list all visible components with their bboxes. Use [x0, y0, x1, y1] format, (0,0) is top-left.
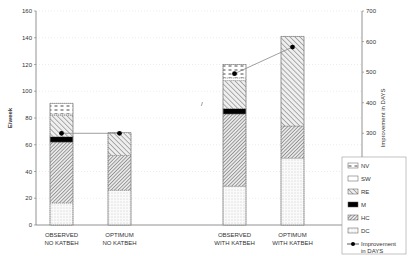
- category-label: OPTIMUM: [278, 232, 306, 238]
- category-label: NO KATBEH: [102, 240, 136, 246]
- improvement-line: [59, 45, 295, 136]
- y-tick-label: 60: [25, 142, 32, 148]
- bar-stack: [108, 133, 131, 225]
- y2-tick-label: 700: [366, 8, 377, 14]
- bar-segment-m: [50, 137, 73, 142]
- category-label: OPTIMUM: [105, 232, 133, 238]
- category-label: NO KATBEH: [44, 240, 78, 246]
- legend-swatch-sw: [348, 176, 358, 181]
- y-tick-label: 140: [22, 35, 33, 41]
- gridlines: [36, 11, 362, 198]
- bar-segment-sw: [223, 78, 246, 81]
- improvement-marker: [59, 131, 64, 136]
- y2-tick-label: 400: [366, 100, 377, 106]
- bar-segment-dc: [108, 190, 131, 225]
- legend-label: in DAYS: [361, 248, 383, 254]
- legend-line-marker-icon: [351, 242, 355, 246]
- legend-label: NV: [361, 163, 369, 169]
- y-tick-label: 160: [22, 8, 33, 14]
- y2-tick-label: 600: [366, 39, 377, 45]
- y-tick-label: 80: [25, 115, 32, 121]
- legend-label: Improvement: [361, 241, 396, 247]
- legend-swatch-re: [348, 189, 358, 194]
- y2-tick-label: 500: [366, 69, 377, 75]
- bar-segment-re: [223, 81, 246, 109]
- legend-label: RE: [361, 189, 369, 195]
- legend-label: SW: [361, 176, 371, 182]
- category-label: OBSERVED: [218, 232, 252, 238]
- bar-segment-re: [281, 36, 304, 126]
- bars: OBSERVEDNO KATBEHOPTIMUMNO KATBEHOBSERVE…: [44, 36, 312, 246]
- legend-swatch-m: [348, 202, 358, 207]
- y-tick-label: 40: [25, 169, 32, 175]
- legend-label: DC: [361, 228, 370, 234]
- bar-stack: [223, 65, 246, 226]
- improvement-marker: [117, 131, 122, 136]
- legend-swatch-hc: [348, 215, 358, 220]
- bar-segment-dc: [281, 158, 304, 225]
- bar-stack: [281, 36, 304, 225]
- legend-label: M: [361, 202, 366, 208]
- bar-segment-hc: [108, 155, 131, 190]
- improvement-marker: [232, 71, 237, 76]
- legend-swatch-dc: [348, 228, 358, 233]
- legend: NVSWREMHCDCImprovementin DAYS: [342, 157, 406, 254]
- chart: 0204060801001201401600100200300400500600…: [0, 0, 410, 256]
- y2-axis-title: Improvement in DAYS: [380, 89, 386, 148]
- y-tick-label: 100: [22, 88, 33, 94]
- bar-segment-hc: [223, 114, 246, 186]
- bar-segment-hc: [50, 142, 73, 203]
- bar-segment-hc: [281, 126, 304, 158]
- y-tick-label: 0: [29, 222, 33, 228]
- bar-segment-dc: [223, 186, 246, 225]
- bar-stack: [50, 103, 73, 225]
- y-tick-label: 120: [22, 62, 33, 68]
- category-label: WITH KATBEH: [214, 240, 255, 246]
- category-label: WITH KATBEH: [272, 240, 313, 246]
- legend-swatch-nv: [348, 163, 358, 168]
- y2-tick-label: 300: [366, 130, 377, 136]
- y-axis-title: E/week: [7, 107, 13, 128]
- bar-segment-nv: [50, 103, 73, 114]
- improvement-marker: [290, 45, 295, 50]
- y-tick-label: 20: [25, 195, 32, 201]
- bar-segment-dc: [50, 203, 73, 225]
- bar-segment-m: [223, 109, 246, 114]
- bar-segment-re: [108, 133, 131, 156]
- legend-label: HC: [361, 215, 370, 221]
- stray-mark: /: [201, 101, 203, 107]
- category-label: OBSERVED: [45, 232, 79, 238]
